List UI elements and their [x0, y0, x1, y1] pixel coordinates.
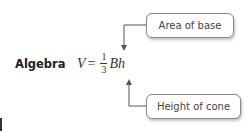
callout-height-of-cone: Height of cone — [146, 94, 241, 119]
arrow-down-icon — [121, 45, 127, 51]
callout-area-of-base: Area of base — [146, 13, 234, 38]
fraction-denominator: 3 — [101, 65, 106, 75]
callout-text: Height of cone — [157, 101, 230, 112]
arrow-up-icon — [126, 79, 132, 85]
formula-lhs: V — [77, 56, 86, 72]
cone-volume-formula: V = 1 3 Bh — [77, 52, 125, 75]
formula-rhs: Bh — [109, 56, 125, 72]
callout-text: Area of base — [159, 20, 222, 31]
formula-equals: = — [88, 56, 96, 72]
section-label: Algebra — [15, 57, 66, 71]
fraction: 1 3 — [100, 52, 107, 75]
fraction-numerator: 1 — [101, 52, 106, 62]
